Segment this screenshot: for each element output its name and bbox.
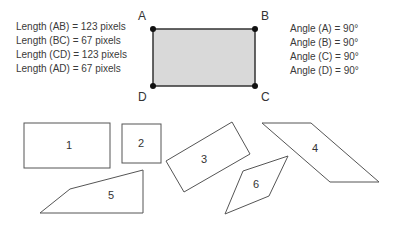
vertex-b-dot xyxy=(252,26,258,32)
vertex-d-label: D xyxy=(138,90,147,104)
diagram-canvas: 1 2 3 4 5 6 xyxy=(0,0,397,225)
vertex-c-label: C xyxy=(261,90,270,104)
shape-5-label: 5 xyxy=(108,189,114,201)
vertex-a-dot xyxy=(150,26,156,32)
shape-6-label: 6 xyxy=(253,178,259,190)
vertex-d-dot xyxy=(150,83,156,89)
shape-2-label: 2 xyxy=(138,137,144,149)
reference-rectangle xyxy=(153,29,255,86)
vertex-b-label: B xyxy=(261,9,269,23)
vertex-c-dot xyxy=(252,83,258,89)
shape-3-label: 3 xyxy=(201,153,207,165)
shape-1-label: 1 xyxy=(66,139,72,151)
shape-5 xyxy=(40,170,143,213)
shape-4-label: 4 xyxy=(312,142,318,154)
shape-3 xyxy=(166,122,250,192)
vertex-a-label: A xyxy=(138,9,146,23)
